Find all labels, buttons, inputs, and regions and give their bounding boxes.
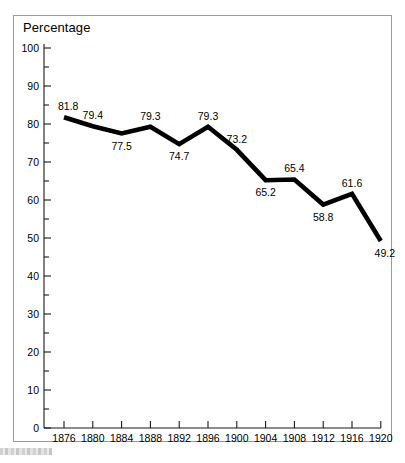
data-point-label: 79.4 (83, 109, 104, 121)
y-tick-label: 60 (27, 194, 39, 206)
data-point-label: 79.3 (140, 110, 161, 122)
x-tick-label: 1876 (52, 432, 76, 444)
y-tick-label: 70 (27, 156, 39, 168)
x-tick-label: 1880 (81, 432, 105, 444)
data-point-label: 73.2 (227, 133, 248, 145)
y-axis-tick-labels: 0102030405060708090100 (21, 42, 39, 434)
y-tick-label: 0 (33, 422, 39, 434)
data-point-label: 74.7 (169, 150, 190, 162)
data-point-label: 81.8 (58, 100, 79, 112)
x-tick-label: 1912 (312, 432, 336, 444)
y-tick-label: 90 (27, 80, 39, 92)
y-tick-label: 100 (21, 42, 39, 54)
x-tick-label: 1888 (139, 432, 163, 444)
x-tick-label: 1900 (225, 432, 249, 444)
x-tick-label: 1892 (168, 432, 192, 444)
chart-figure: Percentage 0102030405060708090100 187618… (0, 0, 405, 463)
y-tick-label: 40 (27, 270, 39, 282)
data-point-label: 49.2 (375, 247, 396, 259)
x-axis-ticks (64, 421, 381, 428)
x-tick-label: 1920 (369, 432, 393, 444)
data-point-label: 58.8 (313, 211, 334, 223)
data-point-label: 61.6 (342, 177, 363, 189)
data-point-label: 65.2 (255, 186, 276, 198)
y-tick-label: 50 (27, 232, 39, 244)
y-tick-label: 20 (27, 346, 39, 358)
data-point-label: 79.3 (198, 110, 219, 122)
y-tick-label: 80 (27, 118, 39, 130)
x-tick-label: 1908 (283, 432, 307, 444)
x-axis-tick-labels: 1876188018841888189218961900190419081912… (52, 432, 392, 444)
x-tick-label: 1904 (254, 432, 278, 444)
scan-watermark-strip (0, 448, 52, 455)
y-tick-label: 10 (27, 384, 39, 396)
x-tick-label: 1916 (340, 432, 364, 444)
x-tick-label: 1896 (196, 432, 220, 444)
data-point-labels: 81.879.477.579.374.779.373.265.265.458.8… (58, 100, 395, 259)
data-point-label: 77.5 (111, 140, 132, 152)
data-point-label: 65.4 (284, 162, 305, 174)
line-chart-plot: 0102030405060708090100 18761880188418881… (0, 0, 405, 463)
x-tick-label: 1884 (110, 432, 134, 444)
y-tick-label: 30 (27, 308, 39, 320)
